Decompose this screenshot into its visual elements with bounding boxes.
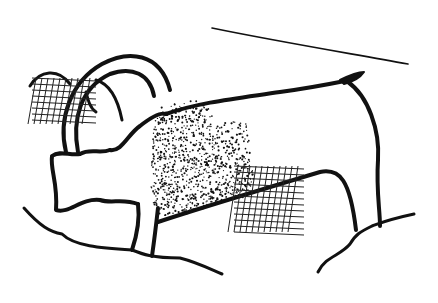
stipple-dot <box>215 142 216 143</box>
stipple-dot <box>187 198 188 199</box>
stipple-dot <box>193 160 195 162</box>
stipple-dot <box>247 168 249 170</box>
stipple-dot <box>177 195 179 197</box>
stipple-dot <box>221 126 223 128</box>
stipple-dot <box>202 115 203 116</box>
stipple-dot <box>167 201 168 202</box>
stipple-dot <box>157 192 159 194</box>
stipple-dot <box>168 184 170 186</box>
stipple-dot <box>228 146 230 148</box>
stipple-dot <box>172 169 174 171</box>
stipple-dot <box>170 121 172 123</box>
stipple-dot <box>237 163 238 164</box>
stipple-dot <box>192 132 194 134</box>
stipple-dot <box>210 191 212 193</box>
stipple-dot <box>194 205 196 207</box>
stipple-dot <box>224 122 226 124</box>
stipple-dot <box>241 167 243 169</box>
stipple-dot <box>172 213 174 215</box>
stipple-dot <box>221 166 223 168</box>
stipple-dot <box>210 160 212 162</box>
stipple-dot <box>195 108 197 110</box>
stipple-dot <box>204 154 205 155</box>
stipple-dot <box>192 120 194 122</box>
stipple-dot <box>166 171 168 173</box>
stipple-dot <box>204 193 205 194</box>
stipple-dot <box>164 168 165 169</box>
stipple-dot <box>185 168 187 170</box>
stipple-dot <box>218 155 220 157</box>
stipple-dot <box>186 139 188 141</box>
stipple-dot <box>219 182 221 184</box>
stipple-dot <box>220 191 222 193</box>
stipple-dot <box>190 158 192 160</box>
stipple-dot <box>231 122 233 124</box>
stipple-dot <box>209 183 211 185</box>
stipple-dot <box>209 155 211 157</box>
stipple-dot <box>154 173 155 174</box>
stipple-dot <box>159 158 161 160</box>
stipple-dot <box>172 148 173 149</box>
stipple-dot <box>223 140 225 142</box>
stipple-dot <box>168 143 170 145</box>
stipple-dot <box>183 185 185 187</box>
stipple-dot <box>236 188 237 189</box>
stipple-dot <box>181 149 183 151</box>
stipple-dot <box>171 106 172 107</box>
stipple-dot <box>163 153 165 155</box>
stipple-dot <box>155 129 157 131</box>
stipple-dot <box>159 140 160 141</box>
stipple-dot <box>232 150 234 152</box>
stipple-dot <box>198 160 200 162</box>
stipple-dot <box>162 112 164 114</box>
stipple-dot <box>153 128 155 130</box>
stipple-dot <box>157 158 159 160</box>
stipple-dot <box>166 121 168 123</box>
stipple-dot <box>203 169 205 171</box>
stipple-dot <box>152 138 154 140</box>
stipple-dot <box>238 170 240 172</box>
stipple-dot <box>187 106 189 108</box>
stipple-dot <box>161 180 163 182</box>
stipple-dot <box>183 141 184 142</box>
stipple-dot <box>155 191 157 193</box>
stipple-dot <box>239 157 241 159</box>
stipple-dot <box>188 182 190 184</box>
stipple-dot <box>209 116 210 117</box>
stipple-dot <box>183 137 185 139</box>
stipple-dot <box>225 152 227 154</box>
stipple-dot <box>208 198 209 199</box>
stipple-dot <box>210 201 212 203</box>
stipple-dot <box>173 199 174 200</box>
stipple-dot <box>159 166 160 167</box>
stipple-dot <box>174 136 175 137</box>
stipple-dot <box>206 128 207 129</box>
stipple-dot <box>165 182 167 184</box>
stipple-dot <box>226 150 227 151</box>
stipple-dot <box>246 134 248 136</box>
stipple-dot <box>170 169 172 171</box>
stipple-dot <box>197 175 199 177</box>
stipple-dot <box>201 185 203 187</box>
stipple-dot <box>194 118 195 119</box>
stipple-dot <box>182 132 184 134</box>
stipple-dot <box>165 176 167 178</box>
stipple-dot <box>164 164 166 166</box>
stipple-dot <box>195 199 197 201</box>
stipple-dot <box>172 165 174 167</box>
stipple-dot <box>198 128 200 130</box>
stipple-dot <box>212 146 214 148</box>
stipple-dot <box>169 191 171 193</box>
stipple-dot <box>239 128 240 129</box>
stipple-dot <box>187 169 189 171</box>
stipple-dot <box>158 189 160 191</box>
stipple-dot <box>172 140 173 141</box>
stipple-dot <box>172 109 174 111</box>
stipple-dot <box>225 131 227 133</box>
stipple-dot <box>207 206 208 207</box>
hatch-line <box>252 166 262 232</box>
stipple-dot <box>189 178 191 180</box>
stipple-dot <box>202 187 204 189</box>
stipple-dot <box>198 125 199 126</box>
stipple-dot <box>245 126 247 128</box>
